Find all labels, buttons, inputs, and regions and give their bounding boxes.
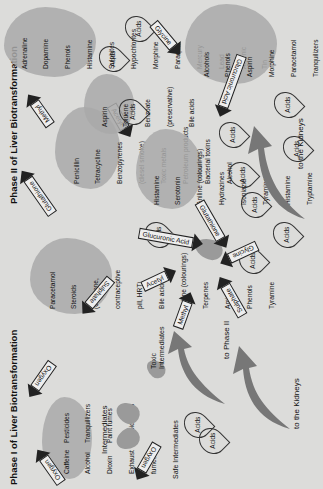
safe-intermediates-label: Safe Intermediates: [172, 419, 180, 479]
glutathione-arrow: Glutathione: [14, 166, 59, 220]
to-kidneys-arrow-icon: [225, 344, 295, 434]
intermediates-label: Intermediates: [100, 406, 109, 454]
methyl-arrow: Methyl: [21, 89, 58, 130]
to-phase2-arrow-icon: [160, 329, 230, 409]
phase1-title: Phase I of Liver Biotransformation: [8, 330, 19, 485]
liver-biotransformation-diagram: Phase I of Liver Biotransformation Phase…: [0, 0, 323, 489]
to-kidneys-label: to the Kidneys: [292, 378, 301, 429]
hub-arrow-glucuronic: Glucuronic Acid: [137, 224, 204, 253]
glycine-list: Aspirin Toluene Benzoate (preservative) …: [86, 87, 210, 127]
oxygen-arrow-2: Oxygen: [22, 358, 61, 402]
to-kidneys-label-phase2: to the Kidneys: [296, 118, 305, 169]
glucuronic-list: Alcohols Phenols Aspirin Morphine Parace…: [188, 40, 323, 78]
